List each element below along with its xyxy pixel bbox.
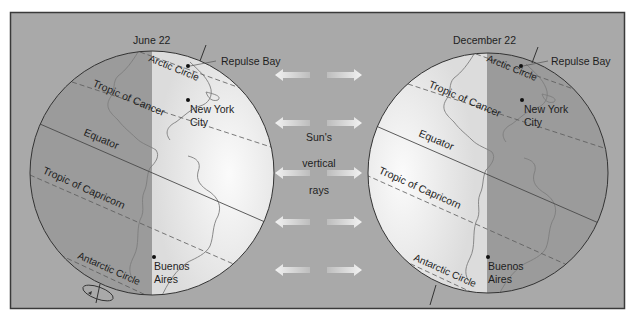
sun-rays-label-line3: rays <box>309 184 329 196</box>
label-buenos-aires-line1: Buenos <box>488 260 524 272</box>
buenos-aires-dot <box>486 255 490 259</box>
label-new-york-line1: New York <box>524 103 569 115</box>
label-new-york-line2: City <box>524 116 543 128</box>
label-repulse-bay: Repulse Bay <box>221 55 281 67</box>
label-new-york-line2: City <box>190 116 209 128</box>
date-label-december: December 22 <box>453 34 516 46</box>
label-buenos-aires-line2: Aires <box>488 273 512 285</box>
buenos-aires-dot <box>152 255 156 259</box>
sun-rays-label-line2: vertical <box>302 157 335 169</box>
date-label-june: June 22 <box>133 34 171 46</box>
label-new-york-line1: New York <box>190 103 235 115</box>
label-buenos-aires-line2: Aires <box>154 273 178 285</box>
label-repulse-bay: Repulse Bay <box>551 55 611 67</box>
sun-rays-label-line1: Sun's <box>306 131 332 143</box>
solstice-diagram: June 22 Repulse Bay Arctic Circle Tropic… <box>0 0 634 325</box>
label-buenos-aires-line1: Buenos <box>154 260 190 272</box>
new-york-dot <box>186 98 190 102</box>
new-york-dot <box>520 98 524 102</box>
